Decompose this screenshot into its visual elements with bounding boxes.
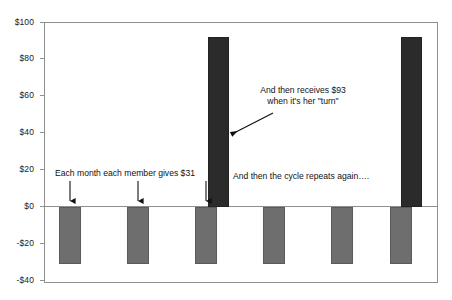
y-tick-label-neg40: -$40: [17, 276, 34, 285]
bar-chart: $100 $80 $60 $40 $20 $0 -$20 -$40: [0, 0, 452, 300]
annotation-arrow-diagonal: [45, 23, 439, 284]
y-tick-label-80: $80: [20, 54, 34, 63]
y-tick-label-40: $40: [20, 128, 34, 137]
y-axis: $100 $80 $60 $40 $20 $0 -$20 -$40: [0, 0, 44, 300]
plot-area: Each month each member gives $31 And the…: [44, 22, 438, 283]
annotation-cycle-repeats: And then the cycle repeats again….: [233, 171, 369, 182]
y-tick-label-0: $0: [24, 202, 34, 211]
y-tick-label-100: $100: [15, 18, 34, 27]
y-tick-label-20: $20: [20, 165, 34, 174]
y-tick-label-neg20: -$20: [17, 239, 34, 248]
y-tick-label-60: $60: [20, 91, 34, 100]
